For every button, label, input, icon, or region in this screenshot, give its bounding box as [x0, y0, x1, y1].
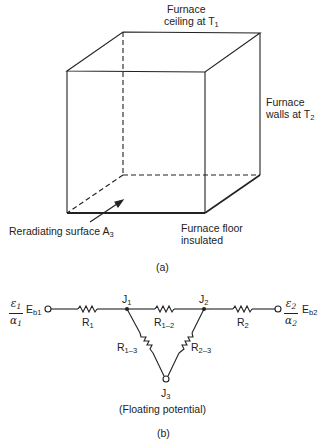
j3-label: J3	[161, 387, 170, 403]
reradiating-sub: 3	[109, 230, 113, 239]
walls-label-line2: walls at T2	[266, 108, 314, 124]
alpha2-sub: 2	[292, 319, 297, 328]
j1-sub: 1	[127, 298, 131, 307]
floating-potential-label: (Floating potential)	[119, 403, 206, 415]
alpha1-sub: 1	[17, 319, 22, 328]
right-source-fraction: ε2 α2	[284, 298, 298, 329]
caption-b: (b)	[157, 427, 170, 439]
r12-sub: 1–2	[162, 321, 175, 330]
eb1-node	[45, 306, 51, 312]
reradiating-text: Reradiating surface A	[9, 225, 109, 237]
walls-sub: 2	[310, 113, 314, 122]
r13-text: R	[117, 341, 125, 353]
r2-text: R	[237, 316, 245, 328]
r2-label: R2	[237, 316, 249, 332]
floor-label-line2: insulated	[181, 234, 223, 246]
j1-label: J1	[122, 293, 131, 309]
left-source-denominator: α1	[10, 315, 22, 329]
diagram-drawing	[0, 0, 325, 441]
ceiling-label-line1: Furnace	[167, 3, 206, 15]
r2-sub: 2	[245, 321, 249, 330]
r1-text: R	[82, 316, 90, 328]
eb1-label: Eb1	[26, 303, 41, 319]
r23-sub: 2–3	[199, 346, 212, 355]
left-source-fraction: ε1 α1	[9, 298, 23, 329]
eb1-sub: b1	[33, 308, 41, 317]
reradiating-arrow	[90, 200, 123, 222]
r13-label: R1–3	[117, 341, 137, 357]
reradiating-label: Reradiating surface A3	[9, 225, 114, 241]
j2-sub: 2	[204, 298, 208, 307]
j2-label: J2	[199, 293, 208, 309]
r12-label: R1–2	[154, 316, 174, 332]
j3-sub: 3	[166, 392, 170, 401]
r1-label: R1	[82, 316, 94, 332]
eps1-sub: 1	[16, 302, 21, 311]
caption-a: (a)	[156, 261, 169, 273]
r12-text: R	[154, 316, 162, 328]
left-source-numerator: ε1	[11, 298, 21, 312]
floor-label-line1: Furnace floor	[181, 222, 243, 234]
ceiling-label-line2: ceiling at T1	[164, 15, 219, 31]
right-source-denominator: α2	[285, 315, 297, 329]
r13-sub: 1–3	[125, 346, 138, 355]
eb1-text: E	[26, 303, 33, 315]
r1-sub: 1	[90, 321, 94, 330]
walls-text: walls at T	[266, 108, 310, 120]
r23-label: R2–3	[191, 341, 211, 357]
r23-text: R	[191, 341, 199, 353]
ceiling-sub: 1	[215, 20, 219, 29]
eb2-sub: b2	[309, 308, 317, 317]
eps2-sub: 2	[291, 302, 296, 311]
eb2-node	[275, 306, 281, 312]
eb2-label: Eb2	[302, 303, 317, 319]
ceiling-text: ceiling at T	[164, 15, 215, 27]
j3-node	[163, 376, 169, 382]
walls-label-line1: Furnace	[266, 96, 305, 108]
eb2-text: E	[302, 303, 309, 315]
right-source-numerator: ε2	[286, 298, 296, 312]
furnace-cube	[67, 32, 260, 213]
